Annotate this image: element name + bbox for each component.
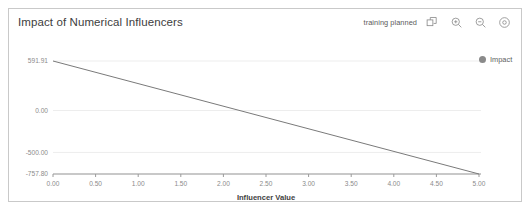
settings-icon[interactable] [498, 16, 511, 29]
chart-legend: Impact [479, 55, 512, 64]
chart-card: Impact of Numerical Influencers training… [8, 8, 522, 202]
popout-icon[interactable] [426, 16, 439, 29]
y-axis-tick-label: 591.91 [28, 57, 49, 64]
status-badge: training planned [364, 18, 417, 27]
x-axis-tick-label: 4.00 [387, 180, 400, 187]
x-axis-tick-label: 1.00 [132, 180, 145, 187]
series-line [53, 61, 479, 174]
header-toolbar [426, 16, 511, 29]
x-axis-tick-label: 2.50 [260, 180, 273, 187]
legend-item-label: Impact [490, 55, 512, 64]
y-axis-tick-label: 0.00 [35, 107, 48, 114]
plot-area: 591.910.00-500.00-757.800.000.501.001.50… [9, 35, 522, 202]
x-axis-tick-label: 0.50 [89, 180, 102, 187]
zoom-in-icon[interactable] [450, 16, 463, 29]
x-axis-tick-label: 1.50 [174, 180, 187, 187]
x-axis-title: Influencer Value [237, 193, 295, 202]
x-axis-tick-label: 2.00 [217, 180, 230, 187]
y-axis-tick-label: -500.00 [26, 149, 49, 156]
page-title: Impact of Numerical Influencers [18, 16, 183, 28]
y-axis-tick-label: -757.80 [26, 170, 49, 177]
x-axis-tick-label: 3.50 [345, 180, 358, 187]
legend-color-swatch [479, 56, 486, 63]
zoom-out-icon[interactable] [474, 16, 487, 29]
card-header: Impact of Numerical Influencers training… [9, 9, 521, 35]
x-axis-tick-label: 0.00 [47, 180, 60, 187]
x-axis-tick-label: 5.00 [473, 180, 486, 187]
chart-canvas: 591.910.00-500.00-757.800.000.501.001.50… [9, 35, 522, 202]
x-axis-tick-label: 3.00 [302, 180, 315, 187]
x-axis-tick-label: 4.50 [430, 180, 443, 187]
